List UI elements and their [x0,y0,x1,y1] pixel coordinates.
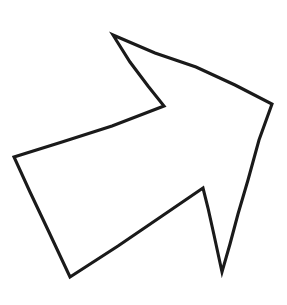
arrow-figure [0,0,287,305]
drawing-canvas [0,0,287,305]
